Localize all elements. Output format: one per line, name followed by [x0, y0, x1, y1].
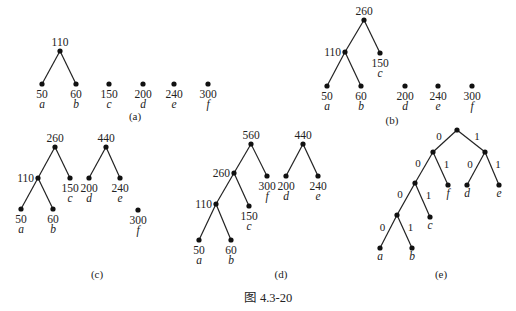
tree-edge-b-n260-n110: [345, 20, 364, 52]
node-symbol-label: a: [377, 250, 383, 262]
tree-edge-d-n440-e: [303, 144, 318, 176]
node-symbol-label: b: [409, 250, 415, 262]
tree-node-a-d: [140, 81, 145, 86]
tree-node-d-n110: [213, 201, 218, 206]
node-symbol-label: c: [106, 98, 111, 110]
tree-node-b-n110: [342, 49, 347, 54]
edge-bit-label: 0: [397, 188, 403, 200]
tree-node-a-c: [106, 81, 111, 86]
node-symbol-label: b: [228, 254, 234, 266]
tree-node-a-f: [205, 81, 210, 86]
node-symbol-label: c: [67, 192, 72, 204]
tree-node-a-a: [39, 81, 44, 86]
edge-bit-label: 1: [426, 189, 432, 201]
tree-edge-e-root-R: [457, 130, 485, 152]
node-weight: 260: [213, 167, 231, 179]
node-symbol-label: e: [117, 192, 122, 204]
node-symbol-label: a: [18, 223, 24, 235]
node-symbol-label: e: [171, 98, 176, 110]
node-weight: 260: [46, 132, 64, 144]
tree-edge-d-n260-c: [234, 173, 249, 206]
tree-edges: [21, 20, 499, 248]
node-symbol-label: a: [324, 100, 330, 112]
node-weight: 440: [294, 129, 312, 141]
tree-node-d-b: [228, 237, 233, 242]
tree-node-c-n440: [103, 144, 108, 149]
node-weight: 260: [355, 5, 373, 17]
node-weight: 110: [52, 36, 69, 48]
edge-bit-label: 1: [495, 158, 501, 170]
tree-node-d-n260: [231, 170, 236, 175]
tree-edge-b-n110-b: [345, 52, 361, 86]
caption-d: (d): [275, 268, 288, 281]
node-weight: 560: [242, 129, 260, 141]
tree-node-b-d: [402, 83, 407, 88]
tree-node-e-LLL: [394, 212, 399, 217]
node-symbol-label: b: [50, 223, 56, 235]
tree-node-e-LL: [412, 180, 417, 185]
node-weight: 110: [324, 46, 341, 58]
node-symbol-label: d: [402, 100, 408, 112]
tree-node-b-f: [469, 83, 474, 88]
caption-b: (b): [386, 114, 399, 127]
node-symbol-label: a: [196, 254, 202, 266]
node-symbol-label: c: [427, 219, 432, 231]
tree-node-c-n260: [52, 144, 57, 149]
tree-node-b-n260: [361, 17, 366, 22]
tree-node-a-e: [171, 81, 176, 86]
tree-node-d-a: [196, 237, 201, 242]
tree-node-b-e: [435, 83, 440, 88]
tree-edge-c-n260-n110: [38, 147, 55, 178]
tree-edge-d-n440-d: [286, 144, 303, 176]
tree-node-d-f: [264, 173, 269, 178]
tree-edge-c-n440-d: [89, 147, 106, 178]
tree-node-c-n110: [35, 175, 40, 180]
edge-bit-label: 1: [474, 130, 480, 142]
tree-node-c-a: [18, 206, 23, 211]
tree-edge-d-n110-b: [216, 204, 231, 240]
node-symbol-label: e: [496, 187, 501, 199]
subfigure-captions: (a) (b) (c) (d) (e) 图 4.3-20: [91, 110, 448, 305]
tree-edge-d-n560-f: [251, 144, 267, 176]
edge-bit-label: 1: [408, 221, 414, 233]
node-symbol-label: d: [283, 190, 289, 202]
tree-edge-c-n110-b: [38, 178, 53, 209]
tree-node-d-n560: [248, 141, 253, 146]
node-symbol-label: c: [246, 220, 251, 232]
node-symbol-label: a: [39, 98, 45, 110]
tree-node-a-n110: [57, 48, 62, 53]
edge-bit-label: 0: [380, 221, 386, 233]
tree-edge-b-n260-c: [364, 20, 380, 53]
tree-edge-a-n110-b: [60, 51, 76, 84]
caption-e: (e): [435, 268, 448, 281]
node-symbol-label: d: [86, 192, 92, 204]
tree-node-e-root: [454, 127, 459, 132]
tree-edge-c-n260-c: [55, 147, 70, 178]
caption-c: (c): [91, 268, 104, 281]
node-weight: 110: [17, 172, 34, 184]
tree-node-d-n440: [300, 141, 305, 146]
huffman-tree-figure: 11050a60b150c200d240e300f260110150c50a60…: [0, 0, 516, 311]
edge-bit-label: 1: [444, 158, 450, 170]
node-symbol-label: b: [358, 100, 364, 112]
edge-bit-label: 0: [415, 157, 421, 169]
tree-edge-a-n110-a: [42, 51, 60, 84]
figure-title: 图 4.3-20: [244, 291, 292, 305]
tree-node-d-c: [246, 203, 251, 208]
node-weight: 440: [97, 132, 115, 144]
node-weight: 110: [195, 198, 212, 210]
node-symbol-label: f: [446, 187, 451, 200]
caption-a: (a): [129, 110, 142, 123]
node-symbol-label: c: [377, 67, 382, 79]
tree-node-b-a: [324, 83, 329, 88]
tree-edge-c-n440-e: [106, 147, 120, 178]
tree-node-c-e: [117, 175, 122, 180]
tree-node-d-d: [283, 173, 288, 178]
node-symbol-label: b: [73, 98, 79, 110]
tree-labels: 11050a60b150c200d240e300f260110150c50a60…: [15, 5, 501, 266]
tree-node-b-b: [358, 83, 363, 88]
tree-node-c-c: [67, 175, 72, 180]
edge-bit-label: 0: [436, 130, 442, 142]
tree-node-d-e: [315, 173, 320, 178]
edge-bit-label: 0: [467, 158, 473, 170]
